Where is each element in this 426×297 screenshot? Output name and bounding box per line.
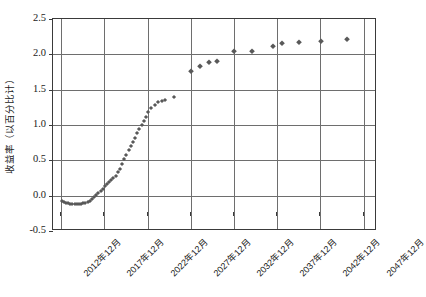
- y-tick-label: 2.5: [33, 13, 46, 24]
- x-tick-mark: [147, 212, 148, 216]
- gridline-horizontal: [53, 54, 375, 55]
- data-point: [197, 64, 202, 69]
- data-point: [344, 36, 349, 41]
- y-axis-tick-labels: 2.52.01.51.00.50.0-0.5: [0, 0, 52, 248]
- x-tick-mark: [60, 212, 61, 216]
- data-point: [271, 43, 276, 48]
- gridline-vertical: [104, 19, 105, 229]
- y-tick-label: 0.0: [33, 189, 46, 200]
- gridline-horizontal: [53, 196, 375, 197]
- data-point: [126, 148, 130, 152]
- data-point: [232, 48, 237, 53]
- data-point: [318, 38, 323, 43]
- gridline-vertical: [277, 19, 278, 229]
- gridline-horizontal: [53, 160, 375, 161]
- x-tick-mark: [233, 212, 234, 216]
- data-point: [118, 167, 122, 171]
- y-tick-mark: [49, 54, 53, 55]
- y-tick-label: -0.5: [29, 225, 46, 236]
- y-tick-mark: [49, 231, 53, 232]
- data-point: [139, 123, 143, 127]
- x-tick-label: 2022年12月: [167, 236, 210, 279]
- y-tick-mark: [49, 196, 53, 197]
- x-tick-mark: [363, 212, 364, 216]
- y-tick-mark: [49, 19, 53, 20]
- x-tick-label: 2032年12月: [253, 236, 296, 279]
- data-point: [172, 95, 176, 99]
- x-tick-label: 2037年12月: [296, 236, 339, 279]
- gridline-vertical: [364, 19, 365, 229]
- y-tick-mark: [49, 160, 53, 161]
- data-point: [137, 127, 141, 131]
- data-point: [189, 68, 194, 73]
- y-tick-label: 2.0: [33, 48, 46, 59]
- gridline-horizontal: [53, 125, 375, 126]
- x-tick-mark: [103, 212, 104, 216]
- data-point: [297, 39, 302, 44]
- data-point: [120, 162, 124, 166]
- x-tick-label: 2042年12月: [340, 236, 383, 279]
- gridline-horizontal: [53, 90, 375, 91]
- gridline-vertical: [148, 19, 149, 229]
- y-tick-label: 0.5: [33, 154, 46, 165]
- plot-area: [52, 18, 376, 230]
- data-point: [146, 110, 150, 114]
- x-tick-label: 2017年12月: [124, 236, 167, 279]
- data-point: [135, 131, 139, 135]
- y-tick-mark: [49, 125, 53, 126]
- x-tick-label: 2047年12月: [383, 236, 426, 279]
- data-point: [249, 48, 254, 53]
- gridline-vertical: [191, 19, 192, 229]
- x-tick-mark: [319, 212, 320, 216]
- data-point: [206, 60, 211, 65]
- x-tick-mark: [276, 212, 277, 216]
- x-tick-label: 2027年12月: [210, 236, 253, 279]
- gridline-vertical: [320, 19, 321, 229]
- data-point: [124, 153, 128, 157]
- data-point: [133, 136, 137, 140]
- x-tick-mark: [190, 212, 191, 216]
- data-point: [163, 98, 167, 102]
- x-tick-label: 2012年12月: [80, 236, 123, 279]
- y-tick-label: 1.0: [33, 119, 46, 130]
- y-tick-label: 1.5: [33, 83, 46, 94]
- data-point: [215, 59, 220, 64]
- data-point: [279, 40, 284, 45]
- y-tick-mark: [49, 90, 53, 91]
- data-point: [149, 106, 153, 110]
